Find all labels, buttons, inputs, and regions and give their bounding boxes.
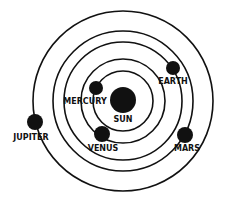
- jupiter-label: JUPITER: [12, 133, 48, 142]
- mercury-label: MERCURY: [63, 97, 107, 106]
- planet-jupiter: [27, 114, 43, 130]
- sun: [110, 87, 136, 113]
- solar-system-diagram: SUN MERCURY VENUS EARTH MARS JUPITER: [0, 0, 229, 199]
- earth-label: EARTH: [158, 77, 188, 86]
- sun-label: SUN: [114, 115, 133, 124]
- planet-mercury: [89, 81, 103, 95]
- planet-venus: [94, 126, 110, 142]
- venus-label: VENUS: [88, 144, 119, 153]
- planet-earth: [166, 61, 180, 75]
- planet-mars: [177, 127, 193, 143]
- mars-label: MARS: [174, 144, 200, 153]
